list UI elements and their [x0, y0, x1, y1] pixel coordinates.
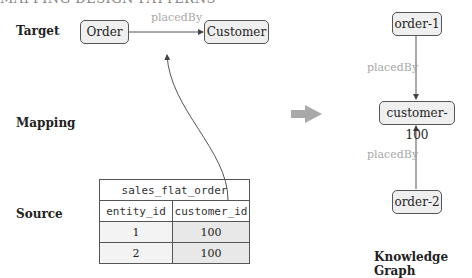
transform-arrow-shaft — [291, 110, 306, 118]
target-node-order: Order — [80, 20, 129, 44]
table-row: 2 100 — [100, 243, 250, 264]
kg-caption: Knowledge Graph — [374, 250, 472, 278]
kg-node-customer-100: customer-100 — [379, 101, 455, 125]
table-cell: 2 — [100, 243, 173, 264]
table-cell: 1 — [100, 222, 173, 243]
source-column-header: entity_id — [100, 201, 173, 222]
table-cell: 100 — [173, 243, 250, 264]
source-column-header: customer_id — [173, 201, 250, 222]
source-table-name: sales_flat_order — [100, 180, 250, 201]
table-cell: 100 — [173, 222, 250, 243]
source-table: sales_flat_order entity_id customer_id 1… — [99, 179, 250, 264]
transform-arrow-head — [305, 105, 322, 123]
target-node-customer: Customer — [204, 20, 269, 44]
kg-edge-label-2: placedBy — [367, 148, 418, 161]
kg-node-order-1: order-1 — [392, 12, 442, 36]
table-row: 1 100 — [100, 222, 250, 243]
kg-edge-label-1: placedBy — [367, 61, 418, 74]
kg-node-order-2: order-2 — [392, 190, 442, 214]
target-edge-label: placedBy — [151, 11, 202, 24]
